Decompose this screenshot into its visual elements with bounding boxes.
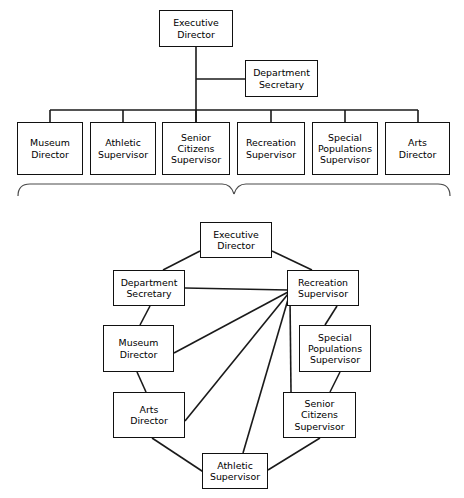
node-label: Special Populations Supervisor [318, 132, 372, 165]
bottom-node-department-secretary[interactable]: Department Secretary [113, 270, 185, 306]
brace-left-half [18, 184, 234, 196]
top-node-museum-director[interactable]: Museum Director [17, 122, 83, 175]
edge-arts-athletic [152, 438, 205, 473]
edge-museum-recreation [174, 292, 288, 353]
edge-special-recreation [325, 306, 337, 325]
top-node-special-populations-supervisor[interactable]: Special Populations Supervisor [312, 122, 378, 175]
node-label: Museum Director [119, 337, 159, 359]
bottom-node-special-populations-supervisor[interactable]: Special Populations Supervisor [299, 325, 371, 372]
bottom-node-executive-director[interactable]: Executive Director [200, 222, 272, 258]
top-chart-edges [50, 47, 418, 122]
edge-exec-recreation [272, 251, 312, 270]
node-label: Executive Director [213, 229, 259, 251]
node-label: Special Populations Supervisor [308, 332, 362, 365]
top-node-department-secretary[interactable]: Department Secretary [245, 60, 318, 97]
node-label: Department Secretary [253, 67, 310, 89]
top-node-arts-director[interactable]: Arts Director [385, 122, 450, 175]
bottom-node-arts-director[interactable]: Arts Director [113, 392, 185, 438]
node-label: Museum Director [30, 137, 70, 159]
top-node-athletic-supervisor[interactable]: Athletic Supervisor [90, 122, 156, 175]
node-label: Executive Director [173, 17, 219, 39]
node-label: Arts Director [399, 137, 437, 159]
edge-museum-arts [137, 372, 146, 392]
node-label: Department Secretary [121, 277, 178, 299]
node-label: Recreation Supervisor [246, 137, 296, 159]
bottom-node-athletic-supervisor[interactable]: Athletic Supervisor [202, 453, 268, 489]
bottom-node-recreation-supervisor[interactable]: Recreation Supervisor [287, 270, 359, 306]
bottom-node-museum-director[interactable]: Museum Director [103, 325, 174, 372]
edge-deptsec-recreation [185, 288, 288, 290]
node-label: Athletic Supervisor [98, 137, 148, 159]
section-brace [18, 184, 450, 196]
node-label: Senior Citizens Supervisor [171, 132, 221, 165]
top-node-recreation-supervisor[interactable]: Recreation Supervisor [237, 122, 305, 175]
edge-exec-deptsec [163, 251, 200, 270]
edge-deptsec-museum [140, 306, 150, 325]
org-chart-figure: Executive Director Department Secretary … [0, 0, 464, 498]
node-label: Senior Citizens Supervisor [294, 398, 344, 431]
brace-right-half [234, 184, 450, 196]
node-label: Athletic Supervisor [210, 460, 260, 482]
bottom-node-senior-citizens-supervisor[interactable]: Senior Citizens Supervisor [283, 392, 356, 438]
edge-arts-recreation [185, 294, 288, 421]
edge-athletic-senior [268, 438, 320, 470]
edge-senior-recreation [290, 298, 291, 392]
top-node-executive-director[interactable]: Executive Director [159, 10, 233, 47]
top-node-senior-citizens-supervisor[interactable]: Senior Citizens Supervisor [162, 122, 230, 175]
node-label: Arts Director [130, 404, 168, 426]
edge-senior-special [330, 372, 340, 392]
node-label: Recreation Supervisor [298, 277, 348, 299]
